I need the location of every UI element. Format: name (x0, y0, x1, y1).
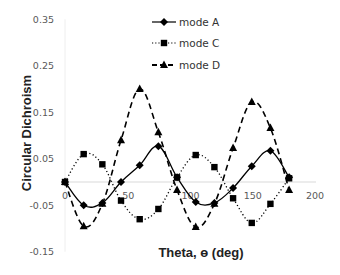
legend-square-icon (161, 40, 167, 46)
y-tick-label: 0.35 (33, 14, 54, 25)
triangle-marker-icon (136, 85, 144, 93)
square-marker-icon (155, 206, 161, 212)
legend-label: mode D (179, 59, 220, 71)
legend: mode Amode Cmode D (152, 16, 220, 71)
y-tick-label: 0.25 (33, 60, 54, 71)
cd-line-chart: 0.350.250.150.05-0.05-0.15 050100150200 … (0, 0, 340, 275)
square-marker-icon (267, 201, 273, 207)
x-tick-label: 150 (244, 190, 262, 201)
legend-label: mode C (179, 37, 219, 49)
triangle-marker-icon (192, 223, 200, 231)
legend-item: mode D (152, 59, 220, 71)
square-marker-icon (211, 164, 217, 170)
series-group (61, 85, 293, 231)
square-marker-icon (230, 195, 236, 201)
y-tick-label: 0.15 (33, 107, 54, 118)
triangle-marker-icon (117, 136, 125, 144)
legend-diamond-icon (160, 18, 168, 26)
diamond-marker-icon (266, 147, 274, 155)
y-tick-label: -0.15 (29, 246, 54, 257)
triangle-marker-icon (229, 144, 237, 152)
legend-item: mode C (152, 37, 219, 49)
y-axis-title: Circular Dichroism (19, 75, 34, 191)
triangle-marker-icon (173, 185, 181, 193)
y-tick-label: -0.05 (29, 200, 54, 211)
legend-label: mode A (179, 16, 220, 28)
square-marker-icon (193, 152, 199, 158)
x-axis-title: Theta, ɵ (deg) (158, 245, 243, 260)
x-tick-label: 0 (62, 190, 68, 201)
triangle-marker-icon (266, 124, 274, 132)
square-marker-icon (137, 216, 143, 222)
x-tick-label: 200 (306, 190, 324, 201)
axes (65, 19, 316, 252)
triangle-marker-icon (248, 98, 256, 106)
square-marker-icon (99, 161, 105, 167)
triangle-marker-icon (285, 185, 293, 193)
triangle-marker-icon (154, 128, 162, 135)
square-marker-icon (174, 174, 180, 180)
legend-item: mode A (152, 16, 220, 28)
square-marker-icon (80, 151, 86, 157)
square-marker-icon (118, 197, 124, 203)
square-marker-icon (249, 220, 255, 226)
y-tick-label: 0.05 (33, 153, 54, 164)
